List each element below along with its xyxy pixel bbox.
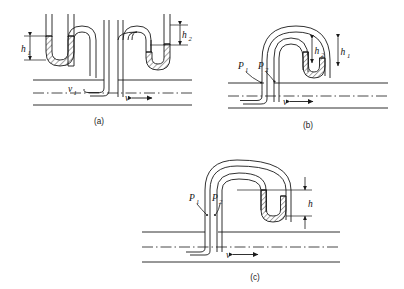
label-h1-sub-a: 1 <box>28 49 31 56</box>
label-p2-sub-b: 2 <box>265 66 269 73</box>
caption-b: (b) <box>303 121 313 130</box>
panel-b-outer-tube <box>240 26 330 104</box>
caption-a: (a) <box>94 117 104 126</box>
label-p1-b: P <box>237 61 244 71</box>
panel-c-mercury <box>261 190 286 222</box>
label-p1-sub-c: 1 <box>196 198 199 205</box>
label-p1-c: P <box>188 193 195 203</box>
label-v-c: v <box>226 250 231 260</box>
label-p1-sub-b: 1 <box>245 66 248 73</box>
panel-a: h 1 h 2 v 1 v (a) <box>21 14 193 126</box>
panel-b-flow-arrow: v <box>283 97 313 107</box>
label-p2-b: P <box>257 61 264 71</box>
panel-a-right-tap <box>118 20 123 97</box>
label-h2-b: h <box>315 46 320 56</box>
panel-c-outer-tube <box>186 160 291 255</box>
label-h1-sub-b: 1 <box>347 52 350 59</box>
panel-b-p2-label: P 2 <box>257 61 276 83</box>
label-p2-c: P <box>211 193 218 203</box>
label-h2-a: h <box>182 30 187 40</box>
panel-c-flow-arrow: v <box>226 250 258 260</box>
label-h1-b: h <box>341 47 346 57</box>
label-v1-a: v <box>68 84 73 94</box>
panel-a-v1-label: v 1 <box>68 84 77 96</box>
panel-c-inner-tube <box>217 173 266 252</box>
panel-b-inner-tube <box>274 38 308 102</box>
panel-c-pipe <box>142 232 340 262</box>
label-h1-a: h <box>21 44 26 54</box>
panel-a-left-u-bend <box>46 36 74 66</box>
panel-a-h1-dimension: h 1 <box>21 36 46 60</box>
panel-a-h2-dimension: h 2 <box>150 25 193 45</box>
panel-c: h P 1 P 2 v (c) <box>142 160 340 282</box>
panel-b: h 2 h 1 P 1 P 2 <box>228 26 388 130</box>
panel-c-level-lines <box>237 190 312 216</box>
label-v-a: v <box>125 93 130 103</box>
label-h-c: h <box>308 199 313 209</box>
panel-c-h-dimension: h <box>305 177 313 229</box>
figure-root: h 1 h 2 v 1 v (a) <box>0 0 404 289</box>
caption-c: (c) <box>250 273 260 282</box>
panel-a-left-u-tube <box>46 14 74 37</box>
label-v-b: v <box>283 97 288 107</box>
panel-a-pipe <box>33 80 192 105</box>
panel-a-flow-arrow: v <box>125 93 152 103</box>
panel-a-left-tap <box>84 20 109 96</box>
panel-b-h1-dimension: h 1 <box>338 38 350 66</box>
label-v1-sub-a: 1 <box>74 89 77 96</box>
manometer-figure: h 1 h 2 v 1 v (a) <box>0 0 404 289</box>
label-h2-sub-a: 2 <box>189 35 193 42</box>
